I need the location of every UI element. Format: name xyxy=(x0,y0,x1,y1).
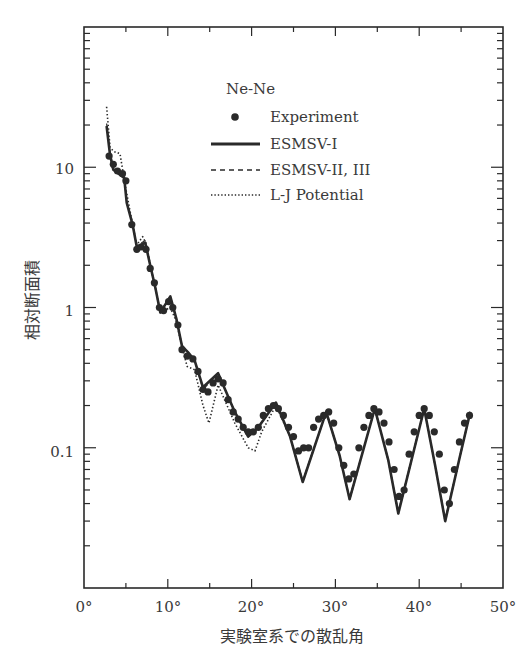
x-tick-20: 20° xyxy=(238,598,265,616)
series-esmsv-2-3-line xyxy=(107,124,471,520)
legend-marker-experiment xyxy=(231,113,239,121)
x-tick-40: 40° xyxy=(406,598,433,616)
y-tick-1: 1 xyxy=(64,302,74,320)
x-tick-30: 30° xyxy=(322,598,349,616)
legend-label-esmsv1: ESMSV-I xyxy=(270,135,337,153)
x-tick-10: 10° xyxy=(155,598,182,616)
legend-label-esmsv23: ESMSV-II, III xyxy=(270,161,371,179)
y-axis-label: 相対断面積 xyxy=(23,260,42,340)
legend-title: Ne-Ne xyxy=(226,80,275,98)
x-tick-50: 50° xyxy=(490,598,517,616)
series-experiment-markers xyxy=(106,153,474,508)
y-tick-10: 10 xyxy=(55,160,74,178)
y-tick-0-1: 0.1 xyxy=(50,443,74,461)
legend: Ne-Ne Experiment ESMSV-I ESMSV-II, III L… xyxy=(211,80,371,204)
x-axis-label: 実験室系での散乱角 xyxy=(220,627,364,646)
legend-label-experiment: Experiment xyxy=(270,108,359,126)
legend-label-lj: L-J Potential xyxy=(270,186,364,204)
x-tick-0: 0° xyxy=(75,598,92,616)
scattering-cross-section-chart: 0° 10° 20° 30° 40° 50° 10 1 0.1 実験室系での散乱… xyxy=(0,0,532,666)
